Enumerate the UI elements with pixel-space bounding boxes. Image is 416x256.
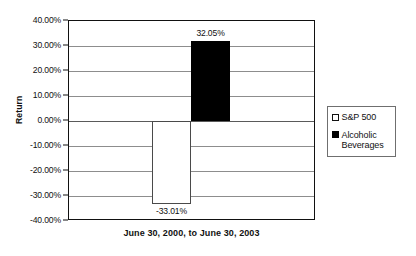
bar-alcoholic-beverages[interactable] — [191, 41, 230, 121]
y-axis-tick-label: -10.00% — [30, 140, 61, 150]
gridline-zero — [69, 121, 314, 122]
gridline — [69, 146, 314, 147]
chart-legend: S&P 500 Alcoholic Beverages — [327, 106, 396, 157]
bar-label-sp500: -33.01% — [137, 206, 206, 216]
y-axis-tick-label: -30.00% — [30, 190, 61, 200]
legend-label-alcoholic-beverages: Alcoholic Beverages — [342, 130, 392, 151]
y-axis-tick-label: 40.00% — [33, 15, 61, 25]
y-axis-tick-label: 20.00% — [33, 65, 61, 75]
legend-item-alcoholic-beverages[interactable]: Alcoholic Beverages — [332, 130, 391, 151]
legend-item-sp500[interactable]: S&P 500 — [332, 112, 391, 123]
y-axis-tick-label: 30.00% — [33, 40, 61, 50]
y-axis-tick-label: 0.00% — [37, 115, 61, 125]
y-axis-title: Return — [14, 96, 24, 124]
x-axis-title: June 30, 2000, to June 30, 2003 — [68, 228, 315, 238]
y-axis-tick-label: 10.00% — [33, 90, 61, 100]
plot-area: -33.01% 32.05% — [68, 20, 315, 220]
bar-chart-figure: 40.00% 30.00% 20.00% 10.00% 0.00% -10.00… — [0, 0, 416, 256]
bar-label-alcoholic-beverages: 32.05% — [176, 28, 245, 38]
bar-sp500[interactable] — [152, 121, 191, 204]
gridline — [69, 196, 314, 197]
legend-label-sp500: S&P 500 — [342, 112, 377, 123]
y-axis-tick-label: -20.00% — [30, 165, 61, 175]
gridline — [69, 171, 314, 172]
y-axis: 40.00% 30.00% 20.00% 10.00% 0.00% -10.00… — [0, 20, 68, 220]
y-axis-tick-label: -40.00% — [30, 215, 61, 225]
legend-swatch-filled-square-icon — [332, 131, 339, 138]
legend-swatch-hollow-square-icon — [332, 114, 339, 121]
